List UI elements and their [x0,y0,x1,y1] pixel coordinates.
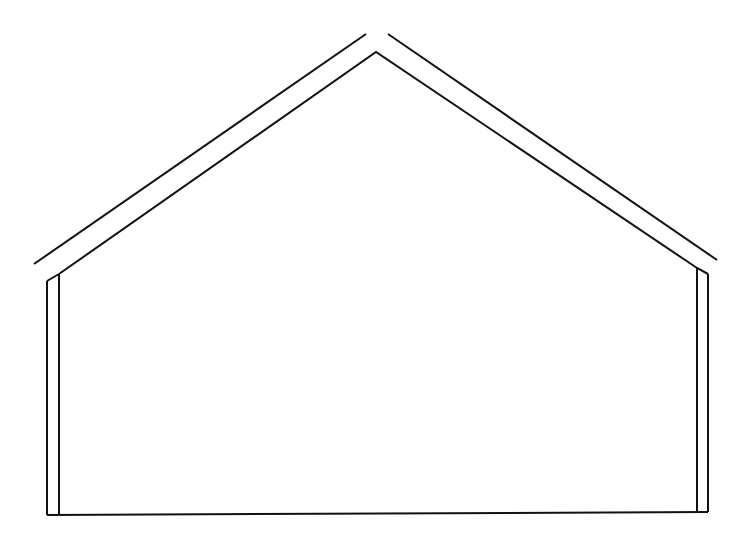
inner-roof-line [47,52,708,281]
floor-line [47,512,708,515]
outer-roof-left-line [34,34,366,264]
house-drawing [0,0,747,539]
outer-roof-right-line [388,34,717,260]
